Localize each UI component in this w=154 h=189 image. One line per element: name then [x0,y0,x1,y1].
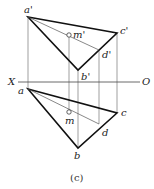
label-b: b [74,150,80,161]
top-line-ad [28,89,99,124]
front-line-ad [28,17,99,50]
projection-diagram: X O a' m' c' d' b' a m c d b (c) [0,0,154,189]
label-m-prime: m' [73,29,85,40]
point-m-prime [67,33,71,37]
point-m [67,110,71,114]
figure-caption: (c) [70,172,84,183]
label-m: m [65,115,74,126]
axis-label-o: O [142,76,150,87]
label-d-prime: d' [102,49,111,60]
label-b-prime: b' [81,71,90,82]
label-c-prime: c' [120,25,128,36]
label-a-prime: a' [24,4,33,15]
label-c: c [121,107,127,118]
axis-label-x: X [7,76,16,87]
label-d: d [102,127,108,138]
front-view-triangle [28,17,117,70]
label-a: a [18,85,24,96]
